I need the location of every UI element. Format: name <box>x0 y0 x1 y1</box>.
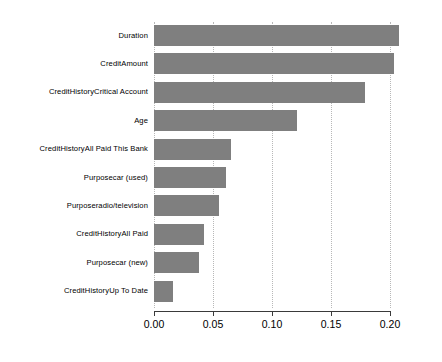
x-axis-tick <box>213 311 214 316</box>
bar-fill <box>154 167 226 188</box>
category-label: CreditHistoryCritical Account <box>2 87 148 97</box>
bar <box>154 82 365 103</box>
bar <box>154 195 219 216</box>
bar-fill <box>154 82 365 103</box>
category-label: CreditHistoryAll Paid <box>2 229 148 239</box>
category-label: Purposecar (used) <box>2 173 148 183</box>
x-axis-tick <box>390 311 391 316</box>
x-axis-tick-label: 0.20 <box>380 318 400 330</box>
x-axis-tick <box>272 311 273 316</box>
bar <box>154 25 399 46</box>
x-axis-tick-label: 0.15 <box>321 318 341 330</box>
x-axis-tick <box>331 311 332 316</box>
bar-fill <box>154 53 394 74</box>
bar <box>154 139 231 160</box>
bar <box>154 110 297 131</box>
bar-fill <box>154 110 297 131</box>
bar-fill <box>154 281 173 302</box>
bar <box>154 281 173 302</box>
bar <box>154 167 226 188</box>
category-label: CreditHistoryUp To Date <box>2 286 148 296</box>
bar-fill <box>154 139 231 160</box>
x-axis-tick <box>154 311 155 316</box>
x-axis-tick-label: 0.10 <box>262 318 282 330</box>
x-axis-tick-label: 0.05 <box>203 318 223 330</box>
category-label: Duration <box>2 31 148 41</box>
plot-area <box>154 22 390 308</box>
bar-fill <box>154 252 199 273</box>
category-label: Purposeradio/television <box>2 201 148 211</box>
bar <box>154 252 199 273</box>
bar-fill <box>154 224 204 245</box>
bar-fill <box>154 195 219 216</box>
category-label: Purposecar (new) <box>2 258 148 268</box>
category-label: CreditAmount <box>2 59 148 69</box>
bar <box>154 53 394 74</box>
bar <box>154 224 204 245</box>
category-label: Age <box>2 116 148 126</box>
bar-fill <box>154 25 399 46</box>
category-label: CreditHistoryAll Paid This Bank <box>2 144 148 154</box>
variable-importance-bar-chart: DurationCreditAmountCreditHistoryCritica… <box>0 0 442 362</box>
x-axis-tick-label: 0.00 <box>144 318 164 330</box>
